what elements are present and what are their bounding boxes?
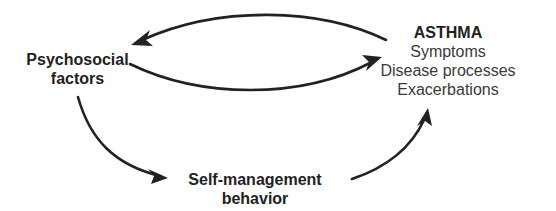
edge-psychosocial-to-asthma [130,55,382,90]
arrowhead-icon [148,169,168,184]
edge-line [352,120,424,179]
edge-psychosocial-to-self-management [78,97,168,184]
edge-line [130,62,372,90]
arrowhead-icon [362,55,382,71]
edge-asthma-to-psychosocial [131,15,386,46]
arrowhead-icon [417,108,432,126]
edge-line [142,15,386,40]
edge-self-management-to-asthma [352,108,432,179]
arrows-layer [0,0,556,211]
edge-line [78,97,160,176]
